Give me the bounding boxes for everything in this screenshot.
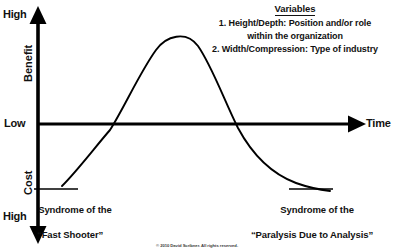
x-axis-arrowhead	[348, 116, 366, 133]
copyright-credit: © 2010 David Scribner. All rights reserv…	[0, 243, 394, 248]
y-axis-high-bottom-label: High	[3, 210, 27, 223]
y-axis-benefit-label: Benefit	[22, 45, 34, 82]
y-axis-top-arrowhead	[30, 6, 47, 24]
annotation-fast-shooter-line2: “Fast Shooter”	[28, 229, 148, 242]
variables-item-1: 1. Height/Depth: Position and/or role wi…	[196, 17, 394, 43]
benefit-cost-curve-path	[62, 36, 330, 191]
y-axis-high-top-label: High	[3, 8, 27, 21]
annotation-paralysis-line1: Syndrome of the	[280, 204, 353, 215]
x-axis-time-label: Time	[366, 117, 391, 130]
variables-item-2-line1: 2. Width/Compression: Type of industry	[212, 44, 378, 54]
variables-list: 1. Height/Depth: Position and/or role wi…	[196, 17, 394, 55]
variables-title: Variables	[275, 2, 316, 16]
variables-item-1-line1: 1. Height/Depth: Position and/or role	[219, 18, 371, 28]
annotation-fast-shooter-line1: Syndrome of the	[38, 204, 111, 215]
benefit-cost-curve-figure: High Benefit Low Cost High Time Variable…	[0, 0, 394, 252]
annotation-paralysis-line2: “Paralysis Due to Analysis”	[234, 229, 390, 242]
variables-callout: Variables 1. Height/Depth: Position and/…	[196, 2, 394, 56]
variables-item-1-line2: within the organization	[196, 30, 394, 43]
variables-item-2: 2. Width/Compression: Type of industry	[196, 43, 394, 56]
y-axis-low-label: Low	[4, 117, 25, 130]
variables-title-wrap: Variables	[196, 2, 394, 17]
